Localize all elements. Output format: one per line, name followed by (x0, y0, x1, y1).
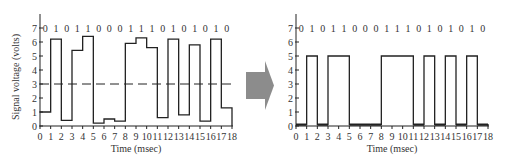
x-tick-label: 1 (304, 131, 309, 142)
bit-label: 1 (310, 23, 315, 34)
x-tick-label: 7 (112, 131, 117, 142)
x-tick-label: 7 (368, 131, 373, 142)
right-chart-digital-signal: 0123456701234567891011121314151617180101… (288, 14, 493, 155)
right-arrow-icon (246, 61, 274, 110)
x-tick-label: 9 (134, 131, 139, 142)
x-tick-label: 14 (440, 131, 450, 142)
x-tick-label: 4 (80, 131, 85, 142)
x-tick-label: 12 (419, 131, 429, 142)
x-tick-label: 16 (462, 131, 472, 142)
x-tick-label: 6 (358, 131, 363, 142)
y-tick-label: 6 (288, 37, 293, 48)
x-tick-label: 14 (184, 131, 194, 142)
bit-label: 1 (86, 23, 91, 34)
y-tick-label: 7 (32, 23, 37, 34)
x-tick-label: 3 (70, 131, 75, 142)
bit-label: 0 (64, 23, 69, 34)
x-tick-label: 11 (409, 131, 419, 142)
signal-trace (296, 56, 488, 126)
bit-label: 1 (342, 23, 347, 34)
x-tick-label: 17 (216, 131, 226, 142)
bit-label: 0 (160, 23, 165, 34)
bit-label: 1 (470, 23, 475, 34)
x-tick-label: 18 (483, 131, 493, 142)
x-tick-label: 13 (174, 131, 184, 142)
y-tick-label: 2 (32, 93, 37, 104)
x-tick-label: 2 (315, 131, 320, 142)
x-tick-label: 1 (48, 131, 53, 142)
bit-label: 0 (363, 23, 368, 34)
y-tick-label: 2 (288, 93, 293, 104)
x-tick-label: 0 (38, 131, 43, 142)
bit-label: 1 (54, 23, 59, 34)
y-tick-label: 5 (288, 51, 293, 62)
bit-label: 1 (139, 23, 144, 34)
bit-label: 0 (118, 23, 123, 34)
bit-label: 0 (107, 23, 112, 34)
bit-label: 0 (352, 23, 357, 34)
y-tick-label: 7 (288, 23, 293, 34)
bit-label: 0 (438, 23, 443, 34)
x-tick-label: 11 (153, 131, 163, 142)
bit-label: 0 (43, 23, 48, 34)
bit-label: 1 (150, 23, 155, 34)
y-tick-label: 3 (32, 79, 37, 90)
bit-label: 1 (75, 23, 80, 34)
bit-label: 0 (480, 23, 485, 34)
bit-label: 0 (299, 23, 304, 34)
bit-label: 0 (96, 23, 101, 34)
bit-label: 1 (128, 23, 133, 34)
x-tick-label: 0 (294, 131, 299, 142)
chart-canvas: 0123456701234567891011121314151617180101… (0, 0, 505, 165)
x-tick-label: 15 (195, 131, 205, 142)
x-tick-label: 5 (91, 131, 96, 142)
bit-label: 0 (182, 23, 187, 34)
left-chart-noisy-signal: 0123456701234567891011121314151617180101… (10, 14, 237, 155)
y-tick-label: 4 (32, 65, 37, 76)
bit-label: 1 (214, 23, 219, 34)
signal-trace (40, 36, 232, 126)
bit-label: 1 (406, 23, 411, 34)
y-tick-label: 1 (32, 107, 37, 118)
x-tick-label: 2 (59, 131, 64, 142)
x-tick-label: 16 (206, 131, 216, 142)
y-tick-label: 3 (288, 79, 293, 90)
x-tick-label: 5 (347, 131, 352, 142)
x-tick-label: 15 (451, 131, 461, 142)
y-tick-label: 5 (32, 51, 37, 62)
x-axis-title: Time (msec) (367, 143, 417, 155)
x-tick-label: 17 (472, 131, 482, 142)
x-tick-label: 3 (326, 131, 331, 142)
bit-label: 0 (203, 23, 208, 34)
y-axis-title: Signal voltage (volts) (10, 34, 22, 120)
bit-label: 1 (448, 23, 453, 34)
x-tick-label: 4 (336, 131, 341, 142)
bit-label: 0 (224, 23, 229, 34)
x-tick-label: 6 (102, 131, 107, 142)
y-tick-label: 0 (288, 121, 293, 132)
bit-label: 1 (384, 23, 389, 34)
x-tick-label: 12 (163, 131, 173, 142)
x-axis-title: Time (msec) (111, 143, 161, 155)
x-tick-label: 10 (398, 131, 408, 142)
y-tick-label: 0 (32, 121, 37, 132)
bit-label: 0 (459, 23, 464, 34)
x-tick-label: 13 (430, 131, 440, 142)
x-tick-label: 18 (227, 131, 237, 142)
bit-label: 1 (427, 23, 432, 34)
bit-label: 0 (374, 23, 379, 34)
y-tick-label: 4 (288, 65, 293, 76)
x-tick-label: 8 (379, 131, 384, 142)
bit-label: 1 (192, 23, 197, 34)
bit-label: 0 (416, 23, 421, 34)
bit-label: 1 (395, 23, 400, 34)
y-tick-label: 1 (288, 107, 293, 118)
x-tick-label: 10 (142, 131, 152, 142)
y-tick-label: 6 (32, 37, 37, 48)
bit-label: 1 (331, 23, 336, 34)
x-tick-label: 9 (390, 131, 395, 142)
bit-label: 0 (320, 23, 325, 34)
x-tick-label: 8 (123, 131, 128, 142)
bit-label: 1 (171, 23, 176, 34)
